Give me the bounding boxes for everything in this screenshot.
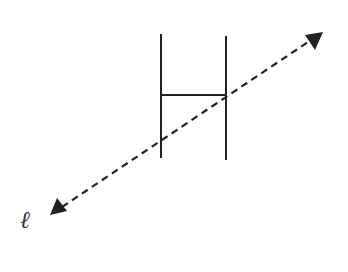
arrowhead-upper-right-icon xyxy=(305,32,323,50)
h-shape xyxy=(161,34,226,160)
line-label: ℓ xyxy=(20,206,30,234)
dashed-line-l xyxy=(62,40,311,207)
diagram-canvas xyxy=(0,0,348,272)
